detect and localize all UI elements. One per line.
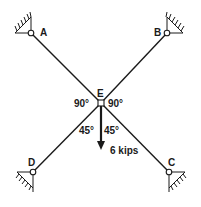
- support-a-icon: [15, 12, 31, 33]
- node-label-e: E: [97, 88, 104, 99]
- support-d-icon: [16, 172, 33, 192]
- member-be: [101, 33, 167, 103]
- member-ae: [31, 33, 101, 103]
- load-arrow-head-icon: [97, 141, 105, 150]
- pin-c-icon: [166, 169, 172, 175]
- truss-diagram: A B E D C 90° 90° 45° 45° 6 kips: [0, 0, 201, 207]
- member-de: [33, 103, 101, 172]
- pin-d-icon: [30, 169, 36, 175]
- joint-e-icon: [98, 100, 104, 106]
- member-ce: [101, 103, 169, 172]
- angle-label-lower-left: 45°: [79, 125, 94, 136]
- support-b-icon: [166, 12, 184, 33]
- angle-label-lower-right: 45°: [104, 125, 119, 136]
- pin-b-icon: [164, 30, 170, 36]
- load-label: 6 kips: [110, 145, 139, 156]
- node-label-d: D: [28, 157, 35, 168]
- pin-a-icon: [28, 30, 34, 36]
- node-label-a: A: [40, 27, 47, 38]
- angle-label-upper-left: 90°: [74, 98, 89, 109]
- node-label-c: C: [168, 157, 175, 168]
- support-c-icon: [169, 172, 186, 192]
- angle-label-upper-right: 90°: [108, 98, 123, 109]
- node-label-b: B: [154, 27, 161, 38]
